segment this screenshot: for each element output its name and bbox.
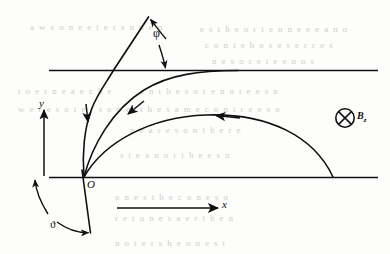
x-axis-label: x: [222, 199, 227, 210]
y-axis-label: y: [39, 98, 44, 109]
theta-pointer-to-boundary: [35, 180, 48, 214]
theta-angle-label: ϑ: [50, 219, 55, 230]
diagram-canvas: [0, 0, 390, 254]
physics-diagram: a w s o n e e t e r s n o e n e s t h e …: [0, 0, 390, 254]
trajectory-steep-arrow-lower: [86, 104, 88, 122]
phi-pointer-to-boundary: [159, 45, 166, 68]
phi-angle-label: φ: [153, 27, 160, 39]
magnetic-field-label: Bz: [357, 111, 366, 124]
origin-label: O: [87, 179, 95, 190]
theta-pointer-to-segment: [57, 222, 89, 233]
field-symbol: B: [357, 110, 364, 121]
circle-x-icon: [336, 109, 354, 127]
trajectory-tangent-to-upper-boundary: [84, 71, 238, 178]
trajectory-tangent-arrow: [128, 101, 144, 114]
trajectory-steep-ray: [113, 17, 149, 71]
trajectory-large-return-arc: [84, 115, 333, 177]
field-subscript: z: [364, 116, 367, 124]
